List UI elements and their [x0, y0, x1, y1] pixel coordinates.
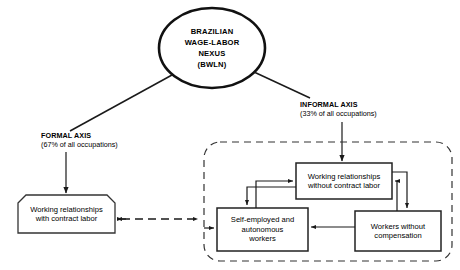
formal-axis-title: FORMAL AXIS: [41, 131, 161, 140]
bwln-hub-ellipse: [159, 8, 265, 88]
top-to-right-connector: [392, 172, 407, 208]
hub-to-formal-axis-line: [70, 75, 172, 131]
diagram-canvas: BRAZILIAN WAGE-LABOR NEXUS (BWLN) FORMAL…: [0, 0, 460, 270]
informal-axis-title: INFORMAL AXIS: [300, 100, 430, 109]
informal-top-box-shape: [296, 163, 392, 199]
left-to-top-connector: [256, 181, 293, 208]
formal-axis-label: FORMAL AXIS (67% of all occupations): [41, 131, 161, 150]
top-to-left-connector: [247, 187, 296, 205]
informal-right-box-shape: [355, 211, 441, 251]
informal-left-box-shape: [217, 208, 308, 251]
hub-to-informal-axis-line: [254, 72, 310, 98]
informal-axis-label: INFORMAL AXIS (33% of all occupations): [300, 100, 430, 119]
formal-axis-subtitle: (67% of all occupations): [41, 140, 161, 149]
informal-axis-subtitle: (33% of all occupations): [300, 109, 430, 118]
right-to-top-connector: [395, 181, 397, 211]
formal-box-shape: [18, 195, 115, 233]
